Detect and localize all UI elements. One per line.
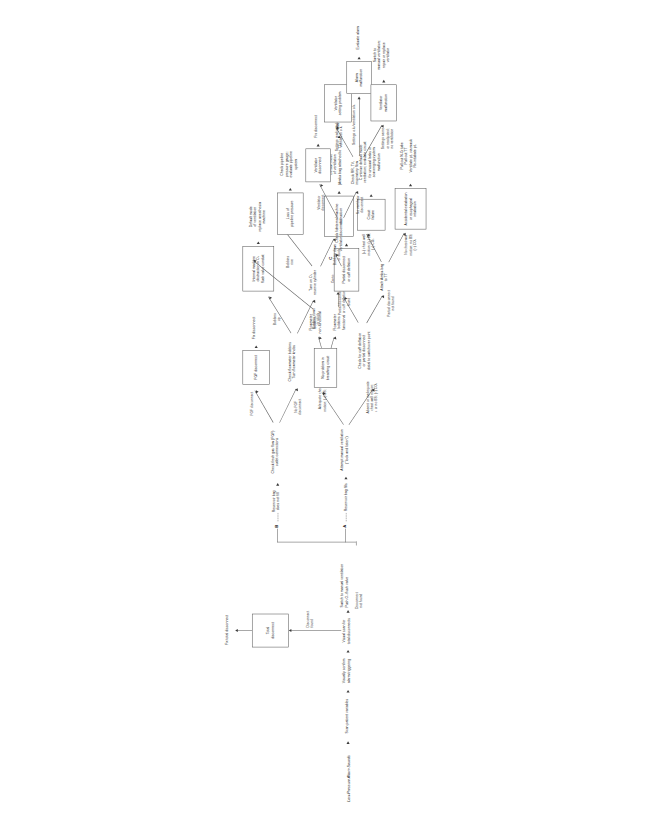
node-scan-patient: Scan patient variables [344,694,348,737]
label-settings-readjusted: Settings readjusted; ventilation o.k. [334,117,342,156]
box-no-problem-breathing-circuit: No problem in breathing circuit [313,348,336,388]
label-settings-same-text: Settings same or readjusted; no ventilat… [381,127,393,148]
node-turn-on-reserve: Turn on O₂ reserve cylinder [308,265,317,300]
arrow-entry-2 [346,689,349,692]
tag-connector-b-text: B [274,524,279,527]
label-bobbins-up-text: Bobbins up [272,313,280,325]
node-check-fgf: Check fresh gas flow (FGF) outlet connec… [270,423,279,480]
bracket-split-v [277,541,356,542]
node-fix-disconnect: Fix disconnect [251,313,255,342]
node-check-bobbins: Check flowmeter bobbins Turn flowmeter k… [287,334,296,389]
label-absent-inadequate-text: Absent or inadequate chest wall motion; … [365,381,377,413]
arrow-pull-out [408,183,411,186]
label-partial-found-text: Partial disconnect or cuff deflation fou… [338,288,350,315]
flowchart-canvas: Low-Pressure Alarm Sounds Scan patient v… [0,0,650,839]
box-internal-obstruction-o2: Internal machine obstruction in O₂ flush… [242,246,274,291]
node-reservoir-fills: Reservoir bag fills [343,480,347,514]
arrow-entry-3 [346,649,349,652]
label-settings-readjusted-text: Settings readjusted; ventilation o.k. [334,121,342,151]
node-check-cuff-text: Check for cuff deflation or partial disc… [358,331,371,369]
box-partial-disconnect-text: Partial disconnect or cuff deflation [342,256,351,283]
arrow-fix-disconnect [254,345,257,348]
box-loss-pipeline: Loss of pipeline pressure [277,192,303,234]
box-accidental-extubation-text: Accidental extubation or esophageal intu… [403,190,416,227]
line-fix-total-v [237,630,252,631]
node-fix-disconnect-2: Fix disconnect [313,111,317,140]
node-pull-out-text: Pull out N-G tube Pull out TT Ventilate … [400,139,417,172]
bracket-split-h-b [277,528,278,542]
arrow-reservoir-not-fill [276,483,279,486]
arrow-fgf-disconnect [254,389,258,393]
label-disconnect-found-text: Disconnect found [305,610,313,627]
label-no-chest: No chest wall motion; no BS; (−) CO₂ [404,228,417,261]
node-attempt-manual-text: Attempt manual ventilation ("look and li… [340,429,348,470]
box-vent-disconnect-text: Ventilator disconnect [313,157,322,174]
label-settings-ok: Settings o.k./ventilation o.k. [351,98,355,151]
node-check-pipeline-text: Check pipeline pressure gauge; evaluate … [280,151,297,177]
line-fgf-disconnect [254,390,273,422]
label-fgf-disconnect: FGF disconnect [249,386,253,420]
arrow-fix-partial [344,243,347,246]
arrow-continue-default [369,194,372,197]
node-evaluate-alarm-text: Evaluate alarm [355,26,359,49]
tag-connector-b: B [274,524,279,527]
arrow-bobbins-up [267,295,271,299]
box-vent-disconnect: Ventilator disconnect [305,148,330,182]
label-no-fgf-disconnect-text: No FGF disconnect [293,398,301,414]
node-turn-on-reserve-text: Turn on O₂ reserve cylinder [308,270,316,295]
label-disconnect-found: Disconnect found [305,599,313,627]
label-bobbins-down-stuck-1-text: Bobbins down or stuck [311,308,319,329]
label-vent-disconnect-text: Ventilator disconnect [317,194,325,210]
node-switch-manual-repair-text: Switch to manual ventilation; repair or … [372,40,389,69]
arrow-fix-disconnect-2 [316,143,319,146]
tag-connector-a-text: A [342,524,347,527]
arrow-default-ambu [337,191,340,194]
label-fgf-disconnect-text: FGF disconnect [249,391,253,415]
label-pos-chest: (+) chest wall motion; (+) BS; (+) CO₂ [362,227,375,261]
line-settings-ok [359,98,360,156]
label-pos-chest-text: (+) chest wall motion; (+) BS; (+) CO₂ [362,232,374,255]
chart-title-text: Low-Pressure Alarm Sounds [346,755,350,802]
node-check-vent-disconnect: Check for ventilator disconnect [334,216,343,253]
box-vent-setting-problem-text: Ventilator setting problem [333,91,342,115]
box-no-problem-text: No problem in breathing circuit [321,355,330,379]
label-partial-not-found-text: Partial disconnect not found [386,290,394,317]
label-no-chest-text: No chest wall motion; no BS; (−) CO₂ [404,233,416,255]
label-disconnect-not-found-text: Disconnect not found [354,592,362,609]
arrow-fix-total [235,628,238,631]
box-total-disconnect-text: Total disconnect [265,622,274,639]
node-switch-manual: Switch to manual ventilation Push O₂ flu… [340,545,349,607]
node-reservoir-not-fill: Reservoir bag does not fill [271,486,280,515]
node-fix-disconnect-2-text: Fix disconnect [313,115,317,138]
label-bobbins-up: Bobbins up [272,308,280,330]
node-fix-total-disconnect: Fix total disconnect [224,606,228,653]
label-no-fgf-disconnect: No FGF disconnect [293,393,301,420]
line-no-chest [388,233,404,262]
node-attempt-manual: Attempt manual ventilation ("look and li… [340,425,349,473]
node-check-fgf-text: Check fresh gas flow (FGF) outlet connec… [270,430,278,473]
label-no-vent-disconnect: No ventilator disconnect [355,190,363,218]
label-vent-disconnect: Ventilator disconnect [317,189,325,215]
node-fix-disconnect-text: Fix disconnect [251,316,255,339]
tag-connector-c: C [328,256,333,259]
box-vent-malfunction: Ventilator malfunction [370,84,396,121]
label-bobbins-rise-text: Bobbins rise [285,255,293,267]
arrow-vent-disconnect [319,183,323,187]
arrow-switch-manual-repair [382,79,385,82]
bracket-split-h-bottom [355,541,356,545]
box-alarm-malfunction: Alarm malfunction [346,61,371,94]
node-switch-manual-text: Switch to manual ventilation Push O₂ flu… [340,563,348,607]
tag-connector-a: A [342,524,347,527]
node-fix-total-disconnect-text: Fix total disconnect [224,614,228,644]
label-no-vent-disconnect-text: No ventilator disconnect [355,195,363,214]
node-visually-confirm-text: Visually confirm alarm triggering [342,658,350,683]
arrow-nonfunctional-to-obstruction [252,258,256,262]
arrow-check-pipeline [288,187,291,190]
arrow-reservoir-fills [344,476,347,479]
node-default-replace: Default mode of ventilation replace anes… [248,194,266,238]
label-bobbins-down-stuck-1: Bobbins down or stuck [311,302,319,334]
arrow-entry-1 [346,741,349,744]
node-check-rr-tv: Check RR, TV, inspiratory flow [350,155,359,189]
tag-connector-c-text: C [328,256,333,259]
flowchart-rotated-stage: Low-Pressure Alarm Sounds Scan patient v… [336,370,650,811]
